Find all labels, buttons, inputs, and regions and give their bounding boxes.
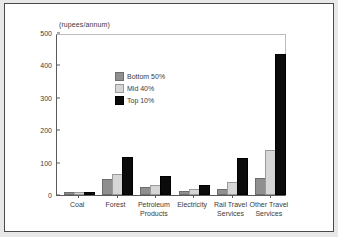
legend-swatch-icon xyxy=(115,84,124,93)
bar-group xyxy=(64,35,93,195)
legend-label: Top 10% xyxy=(127,97,154,104)
y-tick-label: 400 xyxy=(40,62,57,69)
x-tick-mark xyxy=(193,195,194,198)
y-tick-label: 100 xyxy=(40,159,57,166)
x-tick-mark xyxy=(78,195,79,198)
bar[interactable] xyxy=(199,185,210,195)
figure-frame: (rupees/annum) 0100200300400500 Bottom 5… xyxy=(4,3,334,232)
legend-item[interactable]: Top 10% xyxy=(115,95,165,106)
bar[interactable] xyxy=(275,54,286,195)
x-tick-mark xyxy=(232,195,233,198)
bar[interactable] xyxy=(122,157,133,195)
y-axis-unit-label: (rupees/annum) xyxy=(59,21,110,28)
y-tick-label: 500 xyxy=(40,30,57,37)
x-tick-mark xyxy=(117,195,118,198)
bar-group xyxy=(255,35,284,195)
legend-swatch-icon xyxy=(115,72,124,81)
bar-group xyxy=(102,35,131,195)
plot-area: 0100200300400500 Bottom 50%Mid 40%Top 10… xyxy=(56,34,286,196)
screenshot-root: (rupees/annum) 0100200300400500 Bottom 5… xyxy=(0,0,338,237)
bar-chart: (rupees/annum) 0100200300400500 Bottom 5… xyxy=(5,4,333,231)
bar[interactable] xyxy=(160,176,171,195)
y-tick-mark xyxy=(57,33,60,34)
x-tick-mark xyxy=(270,195,271,198)
bar-group xyxy=(217,35,246,195)
x-tick-mark xyxy=(155,195,156,198)
legend-item[interactable]: Bottom 50% xyxy=(115,71,165,82)
x-axis-label: Other Travel Services xyxy=(243,200,295,218)
y-tick-label: 200 xyxy=(40,127,57,134)
bar-group xyxy=(140,35,169,195)
bar[interactable] xyxy=(84,192,95,195)
bar-group xyxy=(179,35,208,195)
y-tick-label: 300 xyxy=(40,94,57,101)
bar[interactable] xyxy=(237,158,248,195)
legend-label: Bottom 50% xyxy=(127,73,165,80)
chart-legend: Bottom 50%Mid 40%Top 10% xyxy=(115,71,165,107)
legend-label: Mid 40% xyxy=(127,85,154,92)
bars-layer xyxy=(57,35,285,195)
y-tick-label: 0 xyxy=(48,192,57,199)
legend-swatch-icon xyxy=(115,96,124,105)
legend-item[interactable]: Mid 40% xyxy=(115,83,165,94)
